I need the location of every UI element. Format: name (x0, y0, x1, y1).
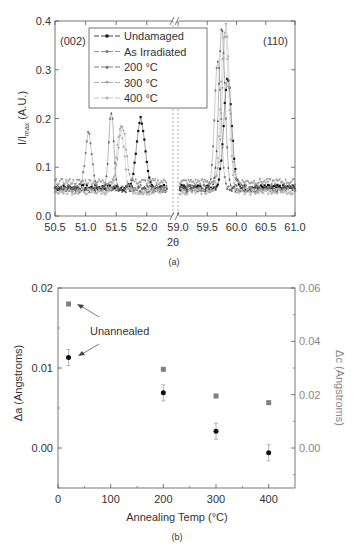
legend-item-label: 200 °C (124, 61, 158, 73)
plot-frame-b (58, 288, 295, 488)
y-tick-label: 0.4 (36, 15, 51, 27)
y-tick-label-right: 0.04 (299, 335, 320, 347)
data-point (214, 393, 219, 398)
y-tick-label-left: 0.00 (32, 442, 53, 454)
y-tick-label: 0.3 (36, 64, 51, 76)
data-point (266, 400, 271, 405)
y-tick-label: 0.1 (36, 161, 51, 173)
caption-a: (a) (169, 257, 180, 267)
x-tick-label: 100 (101, 493, 119, 505)
legend: UndamagedAs Irradiated200 °C300 °C400 °C (89, 28, 207, 108)
x-axis-label-b: Annealing Temp (°C) (126, 511, 227, 523)
y-tick-label-left: 0.02 (32, 282, 53, 294)
x-tick-label: 0 (55, 493, 61, 505)
annotation-arrow-dc (77, 304, 99, 317)
y-tick-label-right: 0.06 (299, 282, 320, 294)
x-tick-label: 200 (154, 493, 172, 505)
annotation-arrow-da (78, 344, 99, 356)
y-tick-label-right: 0.02 (299, 389, 320, 401)
data-point (161, 390, 166, 395)
legend-item-label: 300 °C (124, 77, 158, 89)
xrd-chart-a: 0.00.10.20.30.450.551.051.552.059.059.56… (0, 0, 354, 275)
series-delta-c (66, 301, 271, 405)
x-tick-label: 60.0 (226, 221, 247, 233)
data-point (66, 355, 71, 360)
data-point (66, 301, 71, 306)
x-tick-label: 61.0 (284, 221, 305, 233)
y-axis-label-left-b: Δa (Angstroms) (12, 345, 24, 421)
x-tick-label: 51.0 (75, 221, 96, 233)
legend-item-label: Undamaged (124, 30, 184, 42)
y-tick-label: 0.2 (36, 113, 51, 125)
data-point (161, 367, 166, 372)
peak-label-002: (002) (60, 35, 86, 47)
x-tick-label: 400 (260, 493, 278, 505)
x-tick-label: 50.5 (44, 221, 65, 233)
x-tick-label: 52.0 (136, 221, 157, 233)
y-tick-label-right: 0.00 (299, 442, 320, 454)
legend-item-label: 400 °C (124, 92, 158, 104)
x-tick-label: 60.5 (255, 221, 276, 233)
data-point (214, 429, 219, 434)
y-axis-label-a: I/Imax (A.U.) (16, 91, 30, 145)
lattice-data-series (66, 301, 271, 460)
peak-label-110: (110) (263, 35, 288, 47)
y-tick-label-left: 0.01 (32, 362, 53, 374)
caption-b: (b) (172, 532, 183, 542)
annotation-unannealed: Unannealed (90, 325, 149, 337)
x-tick-label: 59.5 (197, 221, 218, 233)
series-delta-a (66, 350, 271, 461)
data-point (266, 450, 271, 455)
x-tick-label: 51.5 (105, 221, 126, 233)
x-axis-label-a: 2θ (167, 236, 179, 248)
x-tick-label: 59.0 (167, 221, 188, 233)
x-tick-label: 300 (207, 493, 225, 505)
y-axis-label-right-b: Δc (Angstroms) (334, 350, 346, 426)
legend-item-label: As Irradiated (124, 46, 186, 58)
